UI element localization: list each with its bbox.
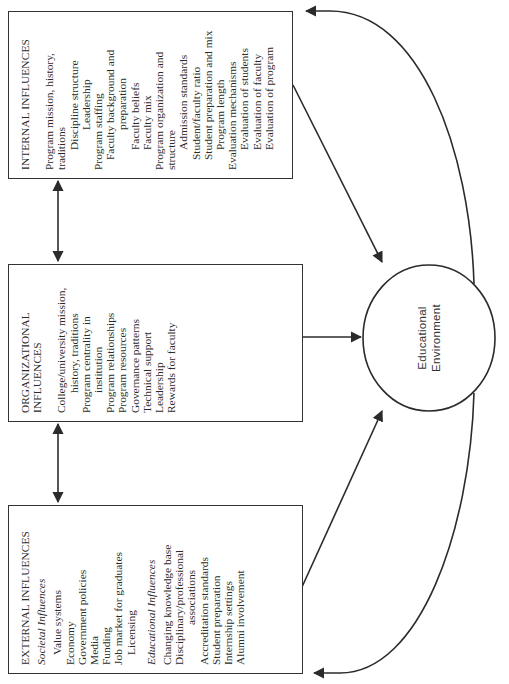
internal-influences-title: INTERNAL INFLUENCES [19, 20, 31, 170]
list-item: Economy [64, 515, 76, 665]
list-item: Disciplinary/professional [173, 515, 185, 665]
list-item: history, traditions [68, 273, 80, 413]
list-item: Governance patterns [129, 273, 141, 413]
organizational-title-line1: ORGANIZATIONAL [19, 273, 31, 413]
list-item: Faculty beliefs [129, 20, 141, 170]
list-item: Technical support [141, 273, 153, 413]
list-item: Program length [214, 20, 226, 170]
list-item: Discipline structure [68, 20, 80, 170]
organizational-influences-text: ORGANIZATIONAL INFLUENCES College/univer… [19, 273, 177, 413]
list-item: Student preparation [210, 515, 222, 665]
internal-influences-text: INTERNAL INFLUENCES Program mission, his… [19, 20, 275, 170]
arrow-internal-environment [293, 85, 382, 262]
societal-influences-list: Value systemsEconomyGovernment policiesM… [51, 515, 136, 665]
list-item: Alumni involvement [234, 515, 246, 665]
list-item: Student/faculty ratio [190, 20, 202, 170]
educational-influences-heading: Educational Influences [145, 515, 157, 665]
list-item: Evaluation of students [238, 20, 250, 170]
list-item: Accreditation standards [198, 515, 210, 665]
organizational-influences-box: ORGANIZATIONAL INFLUENCES College/univer… [8, 264, 303, 422]
list-item: Funding [100, 515, 112, 665]
educational-environment-label: Educational Environment [415, 288, 443, 388]
list-item: College/university mission, [55, 273, 67, 413]
list-item: Media [88, 515, 100, 665]
list-item: Program mission, history, [43, 20, 55, 170]
list-item: institution [92, 273, 104, 413]
center-label-line1: Educational [415, 288, 429, 388]
center-label-line2: Environment [429, 288, 443, 388]
list-item: Program organization and [153, 20, 165, 170]
list-item: Program staffing [92, 20, 104, 170]
list-item: Internship settings [222, 515, 234, 665]
external-influences-title: EXTERNAL INFLUENCES [19, 515, 31, 665]
list-item: Student preparation and mix [202, 20, 214, 170]
list-item: Licensing [125, 515, 137, 665]
list-item: Leadership [153, 273, 165, 413]
feedback-arrow-to-internal [306, 11, 474, 284]
educational-influences-list: Changing knowledge baseDisciplinary/prof… [161, 515, 246, 665]
list-item: Program resources [116, 273, 128, 413]
list-item: Faculty mix [141, 20, 153, 170]
organizational-influences-list: College/university mission,history, trad… [55, 273, 177, 413]
list-item: Faculty background and [104, 20, 116, 170]
list-item: structure [165, 20, 177, 170]
list-item: preparation [116, 20, 128, 170]
list-item: Value systems [51, 515, 63, 665]
list-item: Admission standards [177, 20, 189, 170]
external-influences-box: EXTERNAL INFLUENCES Societal Influences … [8, 505, 303, 674]
external-influences-text: EXTERNAL INFLUENCES Societal Influences … [19, 515, 246, 665]
list-item: traditions [55, 20, 67, 170]
list-item: Changing knowledge base [161, 515, 173, 665]
list-item: Program centrality in [80, 273, 92, 413]
internal-influences-list: Program mission, history,traditionsDisci… [43, 20, 275, 170]
list-item: Leadership [80, 20, 92, 170]
internal-influences-box: INTERNAL INFLUENCES Program mission, his… [8, 11, 293, 179]
list-item: Government policies [76, 515, 88, 665]
list-item: Job market for graduates [112, 515, 124, 665]
organizational-title-line2: INFLUENCES [31, 273, 43, 413]
list-item: Evaluation mechanisms [226, 20, 238, 170]
societal-influences-heading: Societal Influences [35, 515, 47, 665]
feedback-arrow-to-external [314, 393, 474, 673]
list-item: Evaluation of faculty [251, 20, 263, 170]
arrow-external-environment [302, 411, 382, 587]
list-item: Program relationships [104, 273, 116, 413]
list-item: associations [185, 515, 197, 665]
list-item: Rewards for faculty [165, 273, 177, 413]
list-item: Evaluation of program [263, 20, 275, 170]
